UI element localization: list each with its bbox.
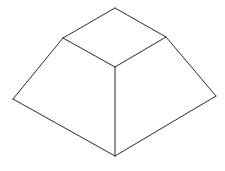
frustum-edges	[13, 8, 216, 156]
edge-top_right-base_right	[166, 37, 216, 96]
edge-top_right-top_front	[115, 37, 166, 67]
edge-base_right-base_front	[115, 96, 216, 156]
edge-top_left-top_front	[63, 38, 115, 67]
edge-base_left-base_front	[13, 99, 115, 156]
edge-top_left-base_left	[13, 38, 63, 99]
edge-top_back-top_left	[63, 8, 115, 38]
frustum-diagram	[0, 0, 225, 171]
edge-top_back-top_right	[115, 8, 166, 37]
